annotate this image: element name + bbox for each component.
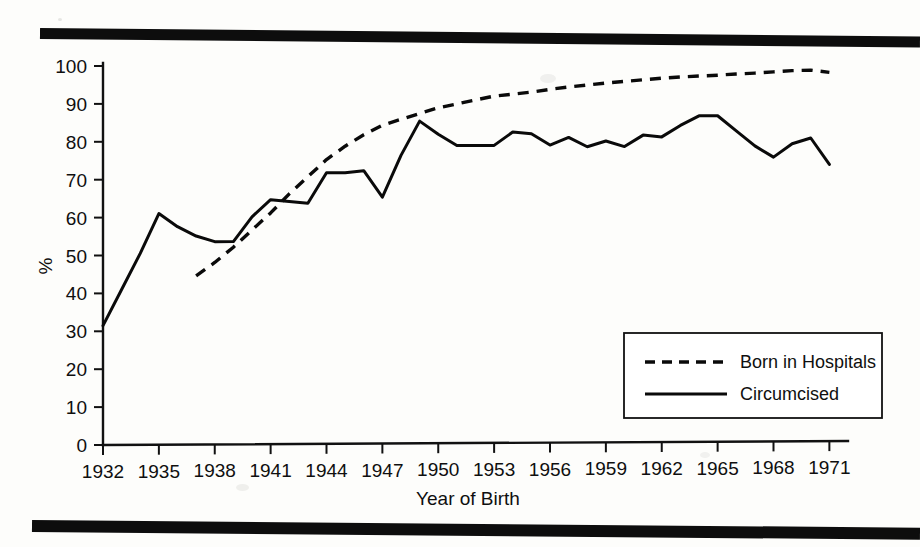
x-tick-label: 1932 bbox=[82, 461, 124, 482]
figure-page: 1009080706050403020100 19321935193819411… bbox=[0, 0, 920, 547]
y-tick-label: 10 bbox=[66, 397, 87, 418]
x-axis-title: Year of Birth bbox=[416, 488, 520, 509]
y-tick-label: 0 bbox=[76, 435, 87, 456]
x-tick-label: 1968 bbox=[752, 457, 794, 478]
x-tick-label: 1944 bbox=[305, 460, 348, 481]
series-circumcised bbox=[103, 116, 829, 326]
x-tick-label: 1941 bbox=[249, 460, 291, 481]
y-axis-ticks bbox=[94, 66, 103, 445]
series-born-in-hospitals bbox=[196, 70, 829, 276]
chart-legend[interactable]: Born in Hospitals Circumcised bbox=[624, 333, 882, 418]
y-axis-tick-labels: 1009080706050403020100 bbox=[55, 56, 87, 456]
y-tick-label: 30 bbox=[66, 321, 87, 342]
legend-label-circumcised: Circumcised bbox=[740, 384, 839, 404]
y-tick-label: 20 bbox=[66, 359, 87, 380]
x-tick-label: 1956 bbox=[529, 459, 571, 480]
y-tick-label: 60 bbox=[66, 208, 87, 229]
y-tick-label: 80 bbox=[66, 132, 87, 153]
legend-box bbox=[624, 333, 882, 418]
x-tick-label: 1950 bbox=[417, 459, 459, 480]
x-axis-tick-labels: 1932193519381941194419471950195319561959… bbox=[82, 457, 851, 482]
x-tick-label: 1971 bbox=[808, 457, 850, 478]
legend-label-born-in-hospitals: Born in Hospitals bbox=[740, 352, 876, 372]
y-tick-label: 100 bbox=[55, 56, 87, 77]
chart-plot-area: 1009080706050403020100 19321935193819411… bbox=[0, 0, 920, 547]
y-tick-label: 50 bbox=[66, 246, 87, 267]
x-tick-label: 1935 bbox=[138, 461, 180, 482]
x-tick-label: 1953 bbox=[473, 459, 515, 480]
x-tick-label: 1965 bbox=[696, 458, 738, 479]
x-tick-label: 1962 bbox=[641, 458, 683, 479]
y-tick-label: 40 bbox=[66, 283, 87, 304]
x-tick-label: 1959 bbox=[585, 458, 627, 479]
line-chart: 1009080706050403020100 19321935193819411… bbox=[0, 0, 920, 547]
x-tick-label: 1938 bbox=[194, 460, 236, 481]
y-tick-label: 90 bbox=[66, 94, 87, 115]
y-axis-title: % bbox=[35, 257, 56, 274]
x-tick-label: 1947 bbox=[361, 460, 403, 481]
y-tick-label: 70 bbox=[66, 170, 87, 191]
